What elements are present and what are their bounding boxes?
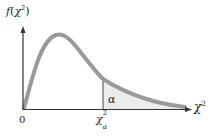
crit-scripts: 2α <box>103 114 107 128</box>
origin-label: 0 <box>19 115 25 125</box>
y-label-function: f <box>6 5 10 18</box>
crit-var: χ <box>96 113 103 126</box>
chart-canvas <box>0 0 218 136</box>
x-axis-arrow-icon <box>185 107 192 112</box>
critical-value-label: χ2α <box>96 114 107 128</box>
y-axis-arrow-icon <box>21 26 26 33</box>
alpha-region-label: α <box>108 94 115 105</box>
chi-square-diagram: f(χ2) 0 χ2α α χ2 <box>0 0 218 136</box>
crit-sub: α <box>103 123 107 131</box>
y-axis-label: f(χ2) <box>6 5 30 17</box>
crit-exp: 2 <box>103 110 107 117</box>
x-axis-label: χ2 <box>194 100 206 113</box>
y-label-exp: 2 <box>21 4 25 12</box>
x-label-exp: 2 <box>201 99 206 108</box>
